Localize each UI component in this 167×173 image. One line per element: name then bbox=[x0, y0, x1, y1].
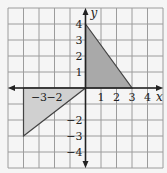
x-axis-label: x bbox=[156, 90, 163, 104]
x-tick-label: −3 bbox=[31, 91, 47, 104]
y-axis-arrow-up-icon bbox=[83, 8, 89, 15]
y-tick-label: 1 bbox=[76, 66, 83, 79]
y-tick-label: 2 bbox=[76, 50, 83, 63]
y-tick-label: −3 bbox=[66, 130, 82, 143]
y-tick-label: 4 bbox=[76, 18, 83, 31]
y-axis-arrow-down-icon bbox=[83, 161, 89, 168]
x-axis-arrow-left-icon bbox=[8, 85, 15, 91]
y-axis-label: y bbox=[90, 6, 98, 20]
x-tick-label: 2 bbox=[113, 91, 120, 104]
coordinate-plane: −3−212344321−2−3−4 x y bbox=[0, 0, 167, 173]
x-tick-label: 3 bbox=[129, 91, 136, 104]
y-tick-label: −4 bbox=[66, 146, 82, 159]
y-tick-label: −2 bbox=[66, 114, 82, 127]
x-tick-label: 4 bbox=[144, 91, 151, 104]
x-tick-label: −2 bbox=[46, 91, 62, 104]
y-tick-label: 3 bbox=[76, 34, 83, 47]
x-tick-label: 1 bbox=[98, 91, 105, 104]
axes bbox=[8, 8, 163, 168]
